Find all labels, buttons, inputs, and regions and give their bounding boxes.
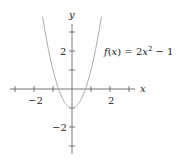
axes: [10, 24, 135, 154]
y-tick-label-neg2: −2: [52, 122, 67, 133]
y-tick-label-2: 2: [60, 46, 66, 57]
x-tick-label-neg2: −2: [28, 95, 43, 106]
x-axis-label: x: [140, 83, 146, 94]
y-axis-label: y: [68, 9, 75, 20]
function-plot: x y −2 2 2 −2 f(x) = 2x2 − 1: [0, 0, 183, 165]
function-annotation: f(x) = 2x2 − 1: [103, 45, 173, 57]
x-tick-label-2: 2: [108, 95, 114, 106]
